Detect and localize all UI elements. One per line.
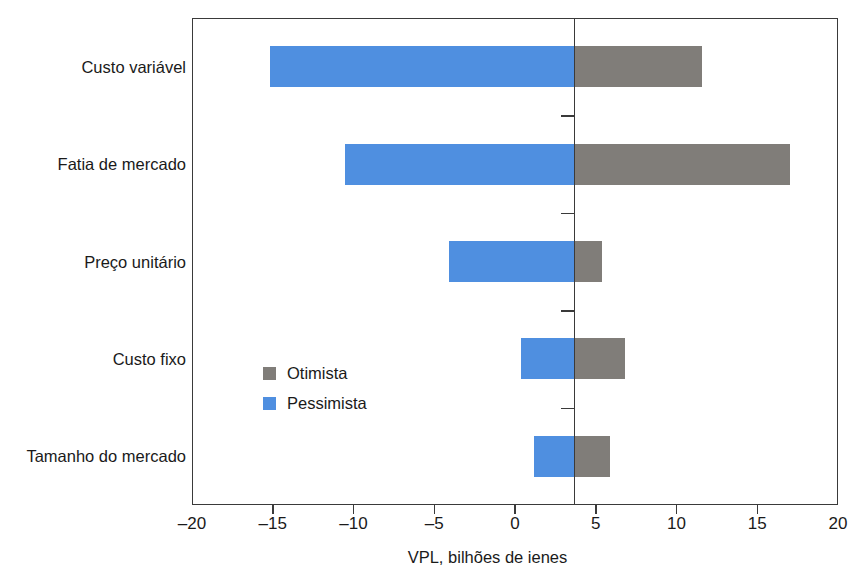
- bar-segment-pessimista: [270, 46, 574, 87]
- x-axis-tick-label: 5: [591, 515, 600, 532]
- bar-segment-pessimista: [449, 241, 574, 282]
- category-label: Preço unitário: [84, 254, 186, 271]
- category-minor-tick: [561, 310, 574, 312]
- legend-label: Pessimista: [287, 395, 367, 412]
- bar-segment-otimista: [574, 241, 602, 282]
- category-label: Fatia de mercado: [58, 156, 186, 173]
- x-axis-tick-label: 15: [748, 515, 767, 532]
- x-axis-tick-label: –10: [339, 515, 367, 532]
- x-axis-tick-label: 10: [667, 515, 686, 532]
- x-axis-tick: [434, 505, 436, 514]
- legend: OtimistaPessimista: [263, 358, 367, 418]
- legend-item: Otimista: [263, 358, 367, 388]
- x-axis-tick: [595, 505, 597, 514]
- bar-segment-pessimista: [534, 436, 574, 477]
- bar-segment-pessimista: [345, 144, 574, 185]
- x-axis-title: VPL, bilhões de ienes: [0, 549, 867, 566]
- bar-segment-otimista: [574, 338, 625, 379]
- x-axis-tick: [757, 505, 759, 514]
- legend-label: Otimista: [287, 365, 348, 382]
- x-axis-tick: [353, 505, 355, 514]
- x-axis-tick: [676, 505, 678, 514]
- category-label: Tamanho do mercado: [26, 448, 186, 465]
- legend-item: Pessimista: [263, 388, 367, 418]
- bar-segment-otimista: [574, 46, 702, 87]
- tornado-chart: Custo variávelFatia de mercadoPreço unit…: [0, 0, 867, 581]
- bar-segment-otimista: [574, 144, 790, 185]
- category-minor-tick: [561, 213, 574, 215]
- x-axis-tick-label: –5: [425, 515, 444, 532]
- legend-swatch-icon: [263, 397, 276, 410]
- x-axis-tick: [272, 505, 274, 514]
- bar-segment-otimista: [574, 436, 610, 477]
- reference-line: [574, 18, 576, 505]
- x-axis-tick-label: 0: [510, 515, 519, 532]
- bar-segment-pessimista: [521, 338, 573, 379]
- category-minor-tick: [561, 408, 574, 410]
- x-axis-title-text: VPL, bilhões de ienes: [408, 549, 568, 566]
- category-minor-tick: [561, 115, 574, 117]
- x-axis-tick-label: 20: [829, 515, 848, 532]
- category-label: Custo fixo: [113, 351, 186, 368]
- legend-swatch-icon: [263, 367, 276, 380]
- category-label: Custo variável: [81, 59, 186, 76]
- x-axis-tick-label: –15: [259, 515, 287, 532]
- x-axis-tick: [514, 505, 516, 514]
- x-axis-tick-label: –20: [178, 515, 206, 532]
